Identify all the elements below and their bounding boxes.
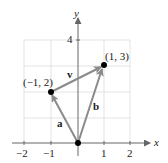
y-axis-label: y	[74, 8, 79, 19]
x-tick-neg1: −1	[43, 148, 55, 159]
vector-label-a: a	[57, 118, 63, 129]
point-1-3	[101, 62, 107, 68]
y-tick-4: 4	[67, 34, 73, 45]
x-axis-label: x	[154, 137, 159, 148]
origin-point	[75, 140, 81, 146]
x-tick-neg2: −2	[16, 148, 28, 159]
vector-v	[51, 67, 101, 92]
vector-a	[52, 95, 78, 143]
x-tick-1: 1	[101, 148, 107, 159]
point-label-1-3: (1, 3)	[105, 51, 129, 62]
point-neg1-2	[48, 89, 54, 95]
vector-label-v: v	[67, 69, 73, 80]
x-tick-2: 2	[127, 148, 133, 159]
vector-label-b: b	[93, 101, 99, 112]
point-label-neg1-2: (−1, 2)	[23, 77, 53, 88]
